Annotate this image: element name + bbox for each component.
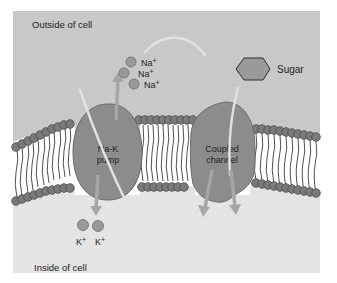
charge-plus: +: [82, 236, 86, 243]
inside-of-cell-label: Inside of cell: [34, 262, 87, 273]
na-k-pump: Na-K pump: [73, 104, 142, 200]
coupled-channel-label-line2: channel: [206, 155, 238, 165]
sodium-label: Na: [144, 80, 156, 90]
charge-plus: +: [156, 79, 160, 86]
charge-plus: +: [150, 68, 154, 75]
k-import-arrow-icon: [96, 175, 98, 208]
sodium-label: Na: [138, 69, 150, 79]
potassium-ion: [78, 220, 89, 231]
sodium-ion: [129, 79, 139, 89]
potassium-ion: [93, 221, 104, 232]
sugar-hexagon-icon: [236, 58, 270, 80]
coupled-channel: Coupled channel: [190, 102, 255, 202]
outside-of-cell-label: Outside of cell: [32, 19, 92, 30]
membrane-transport-diagram: Na-K pump Coupled channel Na+ N: [0, 0, 337, 283]
sodium-ion: [119, 68, 129, 78]
coupled-channel-label-line1: Coupled: [205, 144, 239, 154]
charge-plus: +: [153, 57, 157, 64]
lipid-heads-middle-outer: [135, 116, 198, 125]
sugar-label: Sugar: [277, 64, 304, 75]
sodium-ion: [126, 57, 136, 67]
sodium-label: Na: [141, 58, 153, 68]
lipid-heads-middle-inner: [138, 183, 189, 192]
charge-plus: +: [101, 236, 105, 243]
na-export-arrow-icon: [116, 80, 118, 120]
